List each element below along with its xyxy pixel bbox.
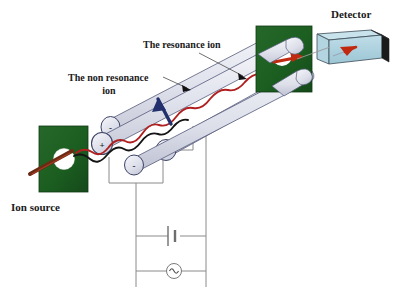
- rod-bottom-front-sign: -: [133, 161, 136, 171]
- detector-label: Detector: [331, 8, 371, 20]
- non-resonance-ion-label-line2: ion: [102, 85, 116, 96]
- quadrupole-mass-filter-diagram: - + + -: [0, 0, 393, 290]
- diagram-canvas: - + + -: [0, 0, 393, 290]
- non-resonance-ion-label-line1: The non resonance: [68, 72, 149, 83]
- rod-left-front-sign: +: [99, 140, 104, 150]
- ion-source-label: Ion source: [11, 201, 60, 213]
- resonance-ion-label: The resonance ion: [143, 39, 221, 50]
- ac-generator: [167, 264, 182, 279]
- ion-source-block: [30, 126, 88, 192]
